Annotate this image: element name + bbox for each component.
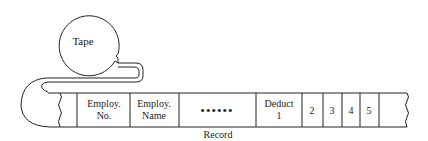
break-right (406, 93, 409, 127)
field-deduct-l2: 1 (277, 110, 282, 121)
field-2: 2 (310, 105, 315, 116)
tape-label: Tape (72, 35, 93, 47)
tape-record-diagram: Tape Employ. No. Employ. Name •••••• Ded… (0, 0, 428, 141)
field-4: 4 (349, 105, 354, 116)
record-label: Record (204, 129, 233, 140)
break-left (59, 93, 62, 127)
field-3: 3 (330, 105, 335, 116)
field-employ-no-l1: Employ. (87, 98, 121, 109)
field-employ-name-l1: Employ. (137, 98, 171, 109)
field-ellipsis: •••••• (200, 103, 233, 118)
field-deduct-l1: Deduct (265, 98, 294, 109)
field-employ-name-l2: Name (142, 110, 166, 121)
field-5: 5 (367, 105, 372, 116)
field-employ-no-l2: No. (97, 110, 112, 121)
